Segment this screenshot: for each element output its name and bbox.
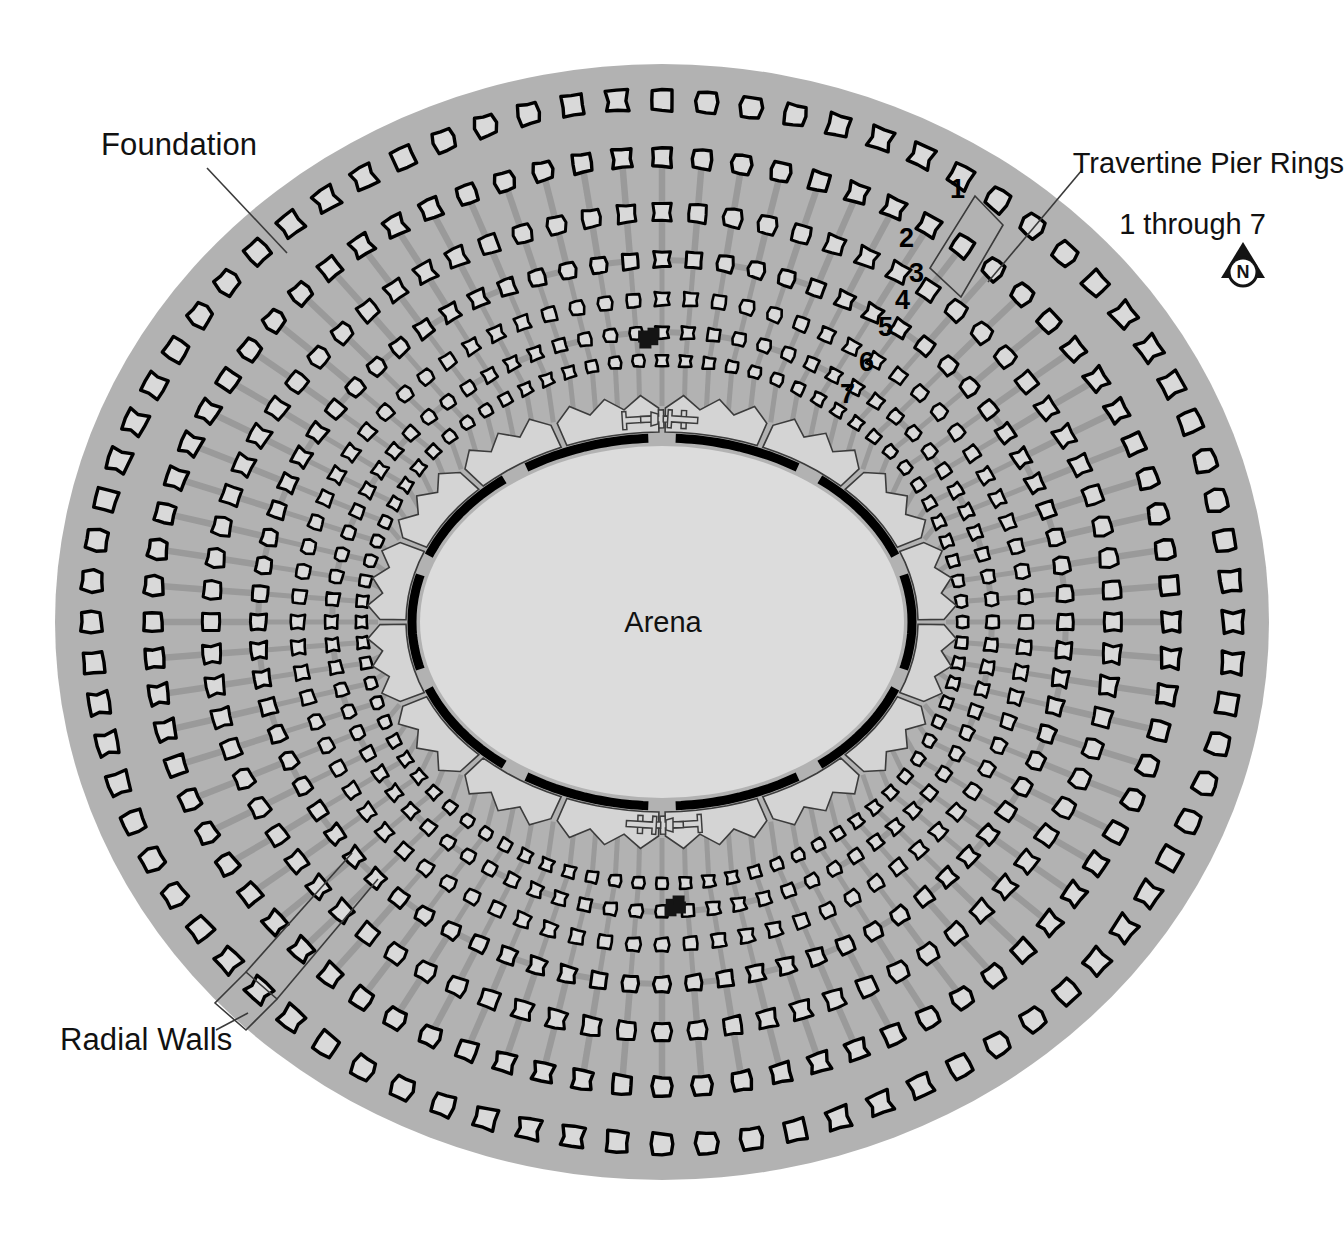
radial-walls-label: Radial Walls <box>60 1024 232 1057</box>
travertine-pier <box>980 660 994 676</box>
travertine-pier <box>606 1130 628 1152</box>
travertine-pier <box>294 665 310 681</box>
travertine-pier <box>252 586 268 602</box>
travertine-pier <box>770 1061 792 1083</box>
travertine-pier <box>781 883 796 899</box>
travertine-pier <box>260 529 277 546</box>
travertine-pier <box>604 329 618 342</box>
travertine-pier <box>679 355 692 367</box>
travertine-pier <box>1019 589 1033 604</box>
travertine-pier <box>154 718 176 742</box>
travertine-pier <box>627 294 641 308</box>
travertine-pier <box>456 183 478 205</box>
travertine-label-line1: Travertine Pier Rings <box>1073 147 1344 179</box>
travertine-pier <box>300 690 316 706</box>
travertine-pier <box>692 150 711 170</box>
travertine-pier <box>1100 549 1119 568</box>
travertine-pier <box>622 976 639 992</box>
travertine-pier <box>211 707 232 729</box>
travertine-label-line2: 1 through 7 <box>1041 209 1344 240</box>
travertine-pier <box>1015 564 1030 579</box>
travertine-pier <box>756 891 772 906</box>
travertine-pier <box>706 902 721 915</box>
travertine-pier <box>552 338 567 353</box>
travertine-pier <box>371 696 384 709</box>
travertine-pier <box>617 1021 635 1040</box>
travertine-pier <box>1205 733 1230 756</box>
ring-number-1: 1 <box>950 174 965 205</box>
travertine-pier <box>202 613 219 630</box>
travertine-pier <box>748 865 762 879</box>
travertine-pier <box>683 292 698 306</box>
travertine-pier <box>1017 640 1032 655</box>
travertine-pier <box>957 616 968 628</box>
travertine-pier <box>1161 647 1181 669</box>
travertine-pier <box>365 677 378 689</box>
travertine-pier <box>531 1061 555 1083</box>
travertine-pier <box>1100 675 1119 697</box>
travertine-pier <box>652 1077 672 1097</box>
arena-label: Arena <box>563 607 763 638</box>
travertine-pier <box>360 657 373 670</box>
travertine-pier <box>656 355 669 366</box>
travertine-pier <box>1156 540 1176 560</box>
travertine-pier <box>651 1133 673 1155</box>
travertine-pier <box>1038 725 1057 744</box>
travertine-pier <box>545 1008 567 1029</box>
travertine-pier <box>94 488 119 512</box>
travertine-pier <box>326 638 340 653</box>
travertine-pier <box>1103 644 1121 665</box>
radial-wall-inner <box>706 835 709 881</box>
travertine-pier <box>617 205 636 224</box>
travertine-pier <box>578 332 591 346</box>
travertine-pier <box>652 90 672 112</box>
travertine-pier <box>359 575 372 588</box>
travertine-pier <box>1213 530 1236 552</box>
travertine-pier <box>1046 697 1064 716</box>
travertine-pier <box>767 307 781 323</box>
travertine-pier <box>1162 612 1181 632</box>
travertine-pier <box>946 554 960 568</box>
travertine-pier <box>560 1125 585 1148</box>
travertine-pier <box>771 857 784 871</box>
travertine-pier <box>1047 529 1065 546</box>
travertine-pier <box>164 754 187 777</box>
travertine-pier <box>1093 517 1113 536</box>
travertine-pier <box>1222 651 1244 675</box>
travertine-pier <box>259 697 278 716</box>
travertine-pier <box>653 148 672 168</box>
travertine-pier <box>1160 576 1179 596</box>
travertine-pier <box>547 216 566 236</box>
travertine-pier <box>364 555 377 567</box>
travertine-pier <box>250 614 266 630</box>
travertine-pier <box>946 676 960 691</box>
travertine-pier <box>717 970 734 987</box>
travertine-pier <box>702 357 715 369</box>
travertine-pier-rings-label: Travertine Pier Rings 1 through 7 <box>1041 117 1344 301</box>
travertine-pier <box>1057 614 1073 630</box>
travertine-pier <box>611 149 632 169</box>
travertine-pier <box>83 652 105 674</box>
travertine-pier <box>291 639 305 655</box>
travertine-pier <box>622 254 638 270</box>
travertine-pier <box>686 252 702 269</box>
travertine-pier <box>732 1070 751 1091</box>
travertine-pier <box>749 366 761 379</box>
travertine-pier <box>712 295 726 310</box>
ring-number-2: 2 <box>899 223 914 254</box>
travertine-pier <box>571 1069 593 1090</box>
travertine-pier <box>626 938 641 952</box>
travertine-pier <box>771 162 791 182</box>
travertine-pier <box>985 592 998 606</box>
travertine-pier <box>652 1023 671 1040</box>
travertine-pier <box>1008 689 1024 706</box>
travertine-pier <box>578 898 593 913</box>
travertine-pier <box>559 262 576 279</box>
travertine-pier <box>356 616 368 629</box>
travertine-pier <box>296 564 311 578</box>
travertine-pier <box>1222 611 1244 634</box>
travertine-pier <box>975 682 990 698</box>
travertine-pier <box>148 683 168 707</box>
travertine-pier <box>562 865 577 879</box>
travertine-pier <box>738 929 755 944</box>
